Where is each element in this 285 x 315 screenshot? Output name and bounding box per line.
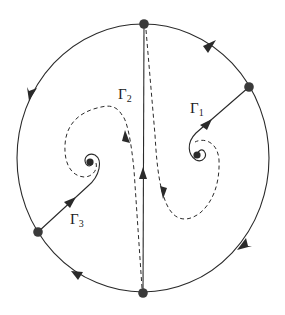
separatrix-gamma1 xyxy=(189,87,249,161)
arrow-icon-left xyxy=(27,87,37,101)
node-right xyxy=(244,82,254,92)
gamma-subscript: 1 xyxy=(199,107,204,118)
arrow-icon-dashed-right xyxy=(160,186,167,199)
separatrix-gamma2 xyxy=(143,24,144,293)
focus-left xyxy=(86,158,93,165)
label-gamma2: Γ2 xyxy=(118,87,132,104)
diagram-svg xyxy=(0,0,285,315)
gamma-subscript: 2 xyxy=(127,93,132,104)
arrow-icon-top-right xyxy=(203,40,216,53)
gamma-symbol: Γ xyxy=(190,100,199,116)
label-gamma3: Γ3 xyxy=(70,212,84,229)
gamma-symbol: Γ xyxy=(118,86,127,102)
phase-portrait-diagram: Γ2 Γ1 Γ3 xyxy=(0,0,285,315)
node-left xyxy=(33,227,43,237)
label-gamma1: Γ1 xyxy=(190,101,204,118)
gamma-subscript: 3 xyxy=(79,218,84,229)
arrow-icon-bottom-left xyxy=(71,271,83,280)
node-top xyxy=(139,19,149,29)
separatrix-gamma3 xyxy=(38,154,99,232)
arrow-icon-gamma2 xyxy=(139,167,147,179)
focus-right xyxy=(193,151,200,158)
node-bottom xyxy=(138,288,148,298)
gamma-symbol: Γ xyxy=(70,211,79,227)
